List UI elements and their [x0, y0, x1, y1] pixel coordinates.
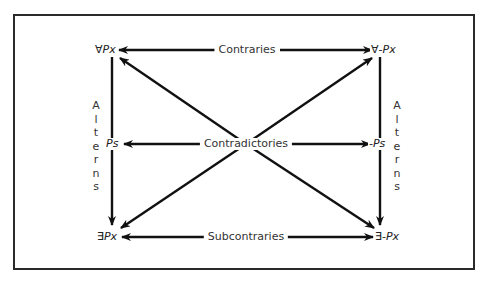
- diagonal-to-top-left: [120, 58, 246, 144]
- node-particular-affirmative: ∃Px: [96, 231, 118, 243]
- node-singular-negative: -Ps: [368, 138, 386, 150]
- node-universal-negative: ∀-Px: [370, 44, 397, 56]
- label-contraries: Contraries: [214, 44, 279, 56]
- diagonal-to-bottom-left: [121, 144, 246, 228]
- diagonal-to-top-right: [246, 58, 372, 144]
- node-singular-affirmative: Ps: [105, 138, 119, 150]
- label-alterns-right: A l t e r n s: [392, 99, 402, 194]
- label-alterns-left: A l t e r n s: [91, 99, 101, 194]
- node-universal-affirmative: ∀Px: [94, 44, 117, 56]
- label-contradictories: Contradictories: [200, 138, 292, 150]
- diagonal-to-bottom-right: [246, 144, 374, 228]
- node-particular-negative: ∃-Px: [374, 231, 400, 243]
- label-subcontraries: Subcontraries: [204, 231, 288, 243]
